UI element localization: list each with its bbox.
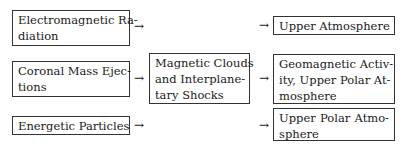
source-electromagnetic-radiation: Electromagnetic Ra- diation [12, 10, 130, 46]
box-line: ity, Upper Polar At- [279, 72, 389, 88]
box-line: diation [18, 28, 124, 44]
box-line: Energetic Particles [18, 118, 124, 134]
box-line: mosphere [279, 88, 389, 104]
box-line: Electromagnetic Ra- [18, 12, 124, 28]
arrow-icon: → [259, 71, 269, 85]
box-line: Magnetic Clouds [155, 55, 244, 71]
target-geomagnetic-activity: Geomagnetic Activ- ity, Upper Polar At- … [273, 54, 395, 104]
box-line: Upper Atmosphere [279, 18, 389, 34]
box-line: Upper Polar Atmo- [279, 110, 389, 126]
arrow-icon: → [259, 118, 269, 132]
box-line: tary Shocks [155, 87, 244, 103]
magnetic-clouds-box: Magnetic Clouds and Interplane- tary Sho… [149, 53, 250, 104]
box-line: Geomagnetic Activ- [279, 56, 389, 72]
target-upper-polar-atmosphere: Upper Polar Atmo- sphere [273, 108, 395, 141]
box-line: sphere [279, 126, 389, 142]
arrow-icon: → [134, 19, 144, 33]
target-upper-atmosphere: Upper Atmosphere [273, 16, 395, 35]
box-line: tions [18, 79, 124, 95]
arrow-icon: → [134, 71, 144, 85]
box-line: and Interplane- [155, 71, 244, 87]
source-energetic-particles: Energetic Particles [12, 116, 130, 135]
box-line: Coronal Mass Ejec- [18, 63, 124, 79]
source-coronal-mass-ejections: Coronal Mass Ejec- tions [12, 61, 130, 97]
arrow-icon: → [259, 18, 269, 32]
arrow-icon: → [134, 118, 144, 132]
